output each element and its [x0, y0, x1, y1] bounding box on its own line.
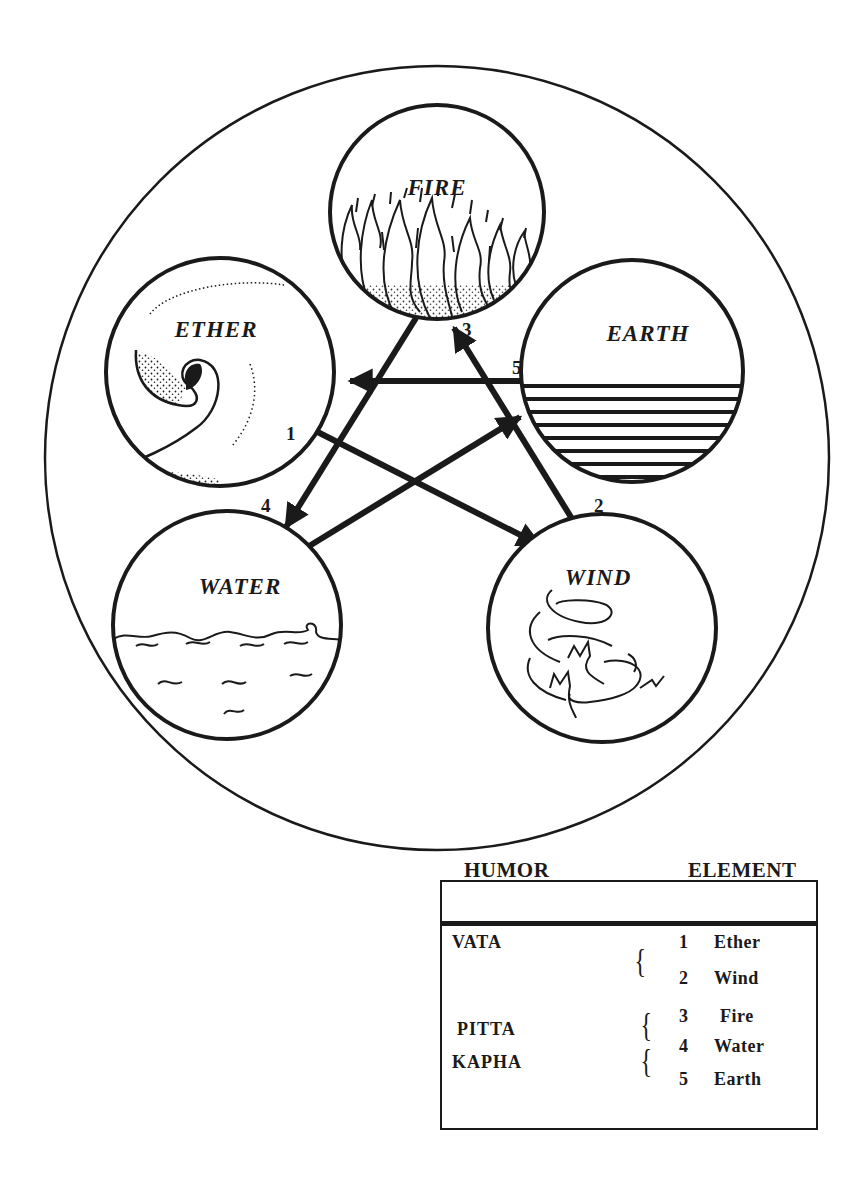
header-divider [442, 921, 816, 926]
label-ether: ETHER [174, 317, 258, 342]
element-fire: FIRE [330, 105, 545, 325]
element-earth: Earth [714, 1069, 762, 1090]
arrow-water-to-earth [306, 417, 520, 548]
label-fire: FIRE [407, 175, 467, 200]
element-num-3: 3 [679, 1006, 688, 1027]
element-num-5: 5 [679, 1069, 688, 1090]
element-fire: Fire [720, 1006, 754, 1027]
element-ether: Ether [714, 932, 761, 953]
brace-kapha: { [640, 1042, 651, 1080]
element-water: Water [714, 1036, 764, 1057]
element-num-2: 2 [679, 968, 688, 989]
number-earth: 5 [512, 357, 522, 378]
humor-kapha: KAPHA [452, 1052, 522, 1073]
label-wind: WIND [565, 565, 632, 590]
brace-vata: { [634, 942, 645, 980]
number-water: 4 [261, 495, 271, 516]
element-num-4: 4 [679, 1036, 688, 1057]
humor-vata: VATA [452, 932, 502, 953]
element-num-1: 1 [679, 932, 688, 953]
element-earth: EARTH [520, 260, 745, 482]
element-water: WATER [112, 511, 342, 739]
brace-pitta: { [640, 1006, 651, 1044]
five-elements-diagram: FIRE ETHER EARTH [0, 0, 868, 860]
label-water: WATER [199, 574, 282, 599]
number-fire: 3 [462, 319, 472, 340]
table-box: VATA { 1 Ether 2 Wind PITTA { 3 Fire KAP… [440, 880, 818, 1130]
label-earth: EARTH [606, 321, 690, 346]
humor-element-table: HUMOR ELEMENT VATA { 1 Ether 2 Wind PITT… [438, 858, 824, 1134]
number-wind: 2 [594, 495, 604, 516]
number-ether: 1 [286, 423, 296, 444]
humor-pitta: PITTA [457, 1019, 516, 1040]
element-ether: ETHER [106, 258, 334, 500]
element-wind: Wind [714, 968, 759, 989]
element-wind: WIND [488, 514, 716, 742]
